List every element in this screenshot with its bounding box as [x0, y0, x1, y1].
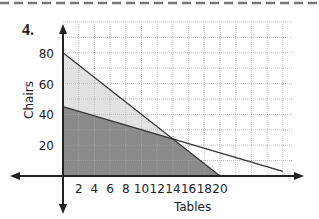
y-axis-arrow-up-icon: [59, 24, 67, 34]
x-tick-label: 8: [122, 182, 130, 196]
x-tick-label: 20: [212, 182, 227, 196]
x-tick-label: 16: [181, 182, 196, 196]
x-tick-label: 2: [75, 182, 83, 196]
x-tick-label: 12: [150, 182, 165, 196]
y-tick-label: 40: [39, 108, 54, 122]
x-tick-label: 14: [165, 182, 180, 196]
x-tick-label: 18: [197, 182, 212, 196]
y-axis-label: Chairs: [22, 81, 36, 119]
x-axis-label: Tables: [173, 200, 211, 214]
y-axis-arrow-down-icon: [59, 204, 67, 214]
x-axis-arrow-left-icon: [10, 172, 20, 180]
y-tick-label: 80: [39, 47, 54, 61]
x-tick-label: 4: [91, 182, 99, 196]
linear-inequality-graph: 246810121416182020406080TablesChairs: [0, 0, 319, 219]
y-tick-label: 60: [39, 78, 54, 92]
x-tick-label: 6: [106, 182, 114, 196]
y-tick-label: 20: [39, 139, 54, 153]
x-axis-arrow-right-icon: [294, 172, 304, 180]
x-tick-label: 10: [134, 182, 149, 196]
